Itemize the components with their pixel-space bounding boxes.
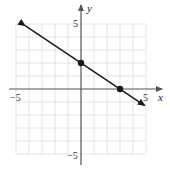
x-axis-label: x [157,91,163,103]
x-tick-neg5: −5 [10,92,21,103]
data-line [25,26,145,106]
x-tick-5: 5 [143,92,148,103]
y-axis-label: y [86,2,92,14]
data-point [117,86,123,92]
y-tick-5: 5 [73,18,78,29]
y-tick-neg5: −5 [67,150,78,161]
coordinate-plane: x y −5 5 5 −5 [0,0,170,172]
data-point [78,60,84,66]
